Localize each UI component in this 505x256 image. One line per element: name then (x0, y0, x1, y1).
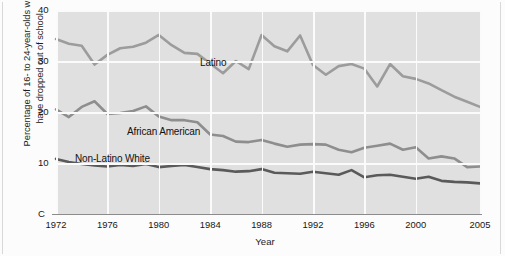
x-axis-tick-label: 1984 (200, 219, 221, 230)
x-axis-tick-label: 1996 (354, 219, 375, 230)
x-axis-tick-label: 1976 (97, 219, 118, 230)
x-axis-tick-label: 1988 (251, 219, 272, 230)
x-axis-tick-label: 1972 (46, 219, 67, 230)
y-axis-tick-label: 30 (38, 55, 49, 66)
y-axis-tick-label: C (38, 208, 45, 219)
x-axis-tick-label: 1992 (303, 219, 324, 230)
x-axis-tick-label: 2005 (470, 219, 491, 230)
chart-figure: Percentage of 16- to 24-year-olds who ha… (0, 0, 505, 256)
x-axis-tick-label: 2000 (405, 219, 426, 230)
series-label-non-latino-white: Non-Latino White (75, 153, 150, 164)
series-label-african-american: African American (127, 126, 200, 137)
series-label-latino: Latino (200, 57, 226, 68)
x-axis-title: Year (50, 236, 480, 247)
y-axis-tick-label: 10 (38, 157, 49, 168)
y-axis-tick-labels: 40302010C (0, 0, 505, 256)
y-axis-tick-label: 20 (38, 106, 49, 117)
y-axis-tick-label: 40 (38, 4, 49, 15)
x-axis-tick-label: 1980 (148, 219, 169, 230)
